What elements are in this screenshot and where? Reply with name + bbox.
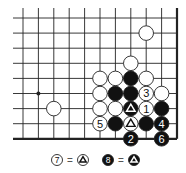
move-number: 4	[159, 118, 165, 130]
legend-entry: 8=	[103, 155, 140, 166]
black-stone	[108, 116, 123, 131]
black-stone: 6	[154, 132, 169, 147]
black-stone	[139, 116, 154, 131]
white-stone	[124, 116, 139, 131]
white-stone	[139, 26, 154, 41]
star-point	[36, 92, 40, 96]
black-stone	[124, 101, 139, 116]
stones-layer: 315426	[47, 26, 169, 146]
black-stone: 4	[154, 116, 169, 131]
white-stone	[93, 101, 108, 116]
white-stone	[93, 71, 108, 86]
move-number: 1	[143, 103, 149, 115]
black-stone	[124, 86, 139, 101]
white-stone	[78, 155, 89, 166]
move-number: 8	[106, 155, 111, 165]
white-stone: 1	[139, 101, 154, 116]
black-stone	[124, 71, 139, 86]
white-stone	[154, 86, 169, 101]
legend: 7=8=	[52, 155, 140, 166]
move-number: 7	[55, 155, 60, 165]
white-stone	[139, 71, 154, 86]
white-stone: 5	[93, 116, 108, 131]
move-number: 5	[97, 118, 103, 130]
equals-sign: =	[118, 155, 124, 166]
equals-sign: =	[67, 155, 73, 166]
legend-entry: 7=	[52, 155, 89, 166]
black-stone	[108, 86, 123, 101]
black-stone	[154, 101, 169, 116]
black-stone: 2	[124, 132, 139, 147]
white-stone	[108, 71, 123, 86]
go-board: 315426 7=8=	[0, 0, 186, 173]
white-stone	[47, 101, 62, 116]
white-stone: 3	[139, 86, 154, 101]
move-number: 3	[143, 87, 149, 99]
white-stone	[108, 101, 123, 116]
white-stone	[124, 56, 139, 71]
black-stone: 8	[103, 155, 114, 166]
white-stone: 7	[52, 155, 63, 166]
move-number: 6	[159, 133, 165, 145]
white-stone	[93, 86, 108, 101]
black-stone	[129, 155, 140, 166]
move-number: 2	[128, 133, 134, 145]
star-points	[36, 92, 40, 96]
